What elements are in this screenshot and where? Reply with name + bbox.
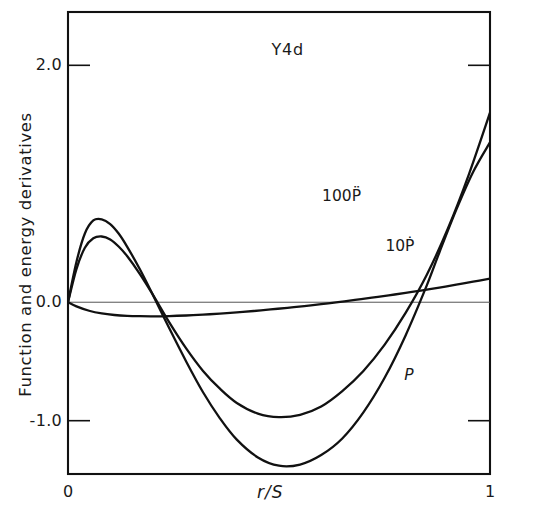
axes-frame (68, 12, 490, 474)
y-tick-label-2: -1.0 (10, 411, 62, 430)
series-line-10Pdot (68, 113, 490, 417)
plot-frame (68, 12, 490, 474)
sample-label: Y4d (271, 40, 304, 59)
series-annotation-2: 10Ṗ (385, 237, 414, 255)
y-tick-label-1: 0.0 (10, 292, 62, 311)
x-axis-title: r/S (257, 482, 284, 502)
series-annotation-3: P (404, 366, 413, 384)
x-tick-label-1: 1 (470, 482, 510, 501)
y-tick-label-0: 2.0 (10, 55, 62, 74)
plot-canvas (0, 0, 534, 511)
chart-figure: Function and energy derivatives 2.00.0-1… (0, 0, 534, 511)
y-axis-title: Function and energy derivatives (16, 90, 35, 420)
x-tick-label-0: 0 (48, 482, 88, 501)
series-annotation-1: 100P̈ (322, 187, 361, 205)
axis-ticks (68, 65, 490, 420)
data-series-group (68, 113, 490, 467)
